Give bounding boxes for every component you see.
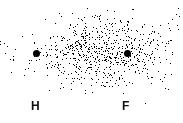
fluorine-nucleus-dot	[124, 50, 131, 57]
hydrogen-nucleus-dot	[33, 50, 40, 57]
fluorine-label: F	[122, 100, 129, 112]
hf-electron-density-diagram: H F	[0, 0, 183, 123]
hydrogen-label: H	[31, 100, 40, 112]
electron-cloud	[0, 0, 183, 123]
